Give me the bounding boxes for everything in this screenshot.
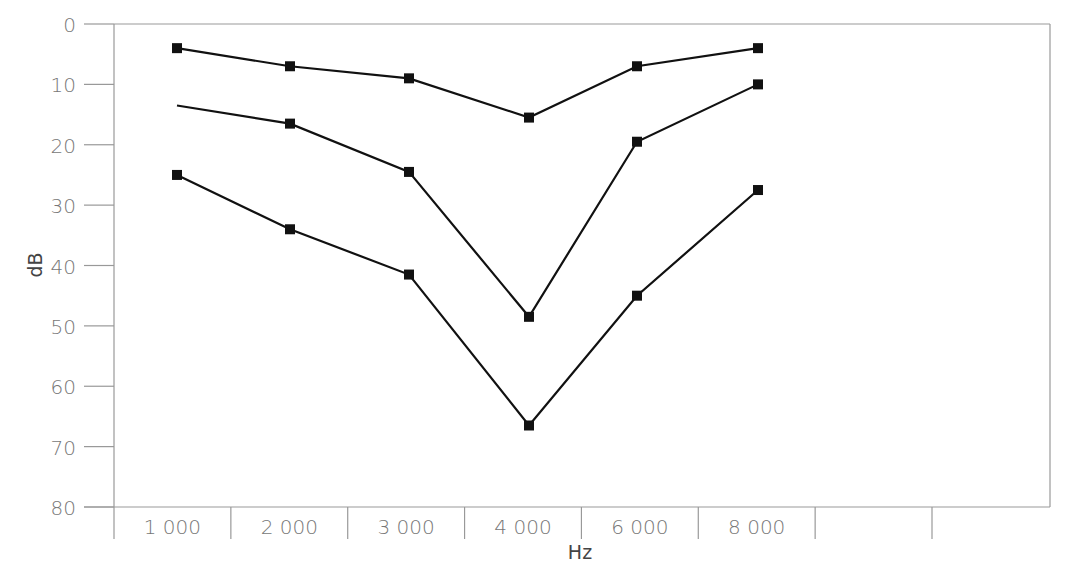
data-point-marker — [524, 113, 534, 123]
y-axis-title: dB — [24, 252, 46, 277]
series-curve-1 — [172, 43, 763, 122]
data-point-marker — [404, 270, 414, 280]
x-tick-label: 6 000 — [611, 515, 668, 539]
data-point-marker — [404, 73, 414, 83]
x-axis: 1 0002 0003 0004 0006 0008 000Hz — [114, 507, 932, 563]
series-line — [177, 175, 758, 426]
y-tick-label: 50 — [51, 315, 76, 339]
x-tick-label: 8 000 — [728, 515, 785, 539]
series-line — [177, 48, 758, 117]
data-point-marker — [285, 224, 295, 234]
y-tick-label: 10 — [51, 73, 76, 97]
x-tick-label: 1 000 — [144, 515, 201, 539]
y-tick-label: 0 — [63, 13, 76, 37]
y-tick-label: 20 — [51, 134, 76, 158]
data-point-marker — [524, 312, 534, 322]
x-tick-label: 2 000 — [261, 515, 318, 539]
data-point-marker — [632, 291, 642, 301]
y-tick-label: 30 — [51, 194, 76, 218]
data-point-marker — [285, 61, 295, 71]
data-point-marker — [404, 167, 414, 177]
data-point-marker — [753, 79, 763, 89]
series-curve-3 — [172, 170, 763, 431]
series-line — [177, 84, 758, 316]
data-point-marker — [172, 170, 182, 180]
y-tick-label: 70 — [51, 436, 76, 460]
audiogram-chart: 01020304050607080dB1 0002 0003 0004 0006… — [0, 0, 1067, 574]
x-axis-title: Hz — [568, 541, 592, 563]
series-curve-2 — [177, 79, 763, 321]
y-tick-label: 80 — [51, 496, 76, 520]
data-point-marker — [285, 119, 295, 129]
plot-frame — [84, 24, 1050, 507]
x-tick-label: 3 000 — [378, 515, 435, 539]
y-axis: 01020304050607080dB — [24, 13, 114, 520]
x-tick-label: 4 000 — [494, 515, 551, 539]
data-point-marker — [632, 61, 642, 71]
y-tick-label: 60 — [51, 375, 76, 399]
data-point-marker — [524, 420, 534, 430]
data-point-marker — [632, 137, 642, 147]
y-tick-label: 40 — [51, 255, 76, 279]
data-point-marker — [753, 43, 763, 53]
data-point-marker — [753, 185, 763, 195]
data-point-marker — [172, 43, 182, 53]
